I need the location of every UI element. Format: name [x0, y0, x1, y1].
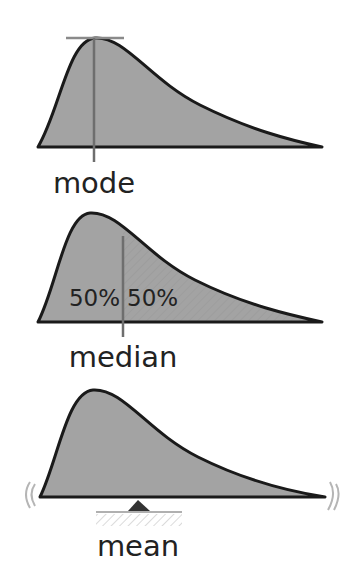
wobble-right-icon — [328, 482, 333, 510]
distribution-curve — [38, 38, 322, 147]
wobble-left-icon — [26, 482, 30, 508]
mode-panel: mode — [38, 38, 322, 200]
mode-label: mode — [53, 166, 135, 200]
mean-panel: mean — [26, 390, 339, 563]
distribution-curve — [40, 390, 325, 497]
median-panel: 50% 50% median — [38, 213, 322, 374]
fulcrum-icon — [128, 500, 150, 511]
left-percent: 50% — [69, 285, 120, 311]
median-label: median — [69, 340, 178, 374]
right-percent: 50% — [127, 285, 178, 311]
ground-hatch — [96, 514, 182, 526]
mode-median-mean-diagram: mode 50% 50% median mean — [0, 0, 360, 586]
mean-label: mean — [97, 529, 179, 563]
